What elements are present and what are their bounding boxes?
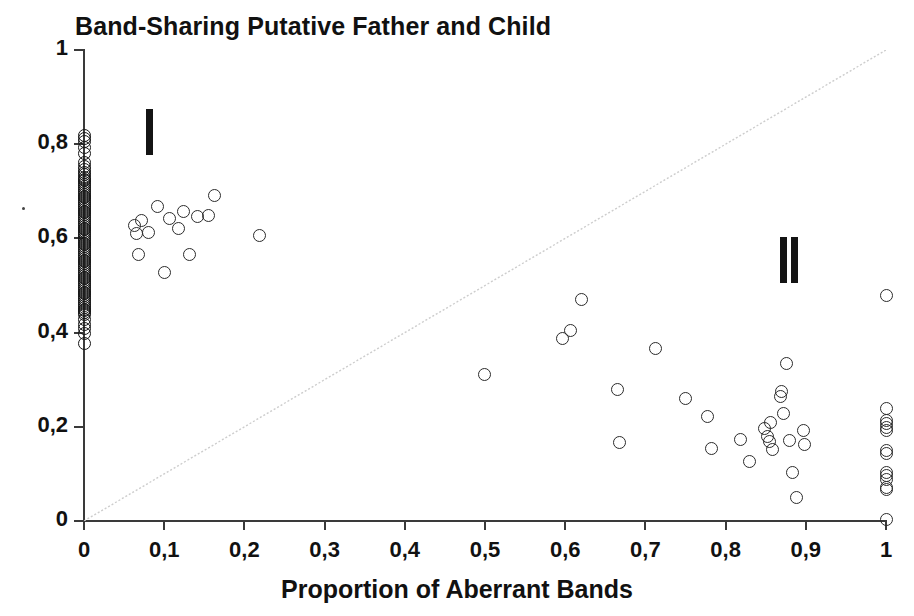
- annotation-bar: [146, 109, 153, 155]
- x-tick: [243, 521, 245, 530]
- scatter-point: [777, 407, 790, 420]
- x-tick-label: 0,7: [605, 537, 685, 563]
- x-tick-label: 0,1: [124, 537, 204, 563]
- chart-title: Band-Sharing Putative Father and Child: [75, 12, 551, 41]
- scatter-point: [564, 324, 577, 337]
- x-tick: [644, 521, 646, 530]
- x-tick: [324, 521, 326, 530]
- x-tick: [725, 521, 727, 530]
- x-tick-label: 0,6: [525, 537, 605, 563]
- scatter-point: [790, 491, 803, 504]
- y-tick-label: 1: [0, 35, 68, 61]
- scan-speck: [22, 207, 25, 210]
- scatter-point: [142, 226, 155, 239]
- x-tick: [564, 521, 566, 530]
- x-tick-label: 1: [846, 537, 914, 563]
- scatter-point: [649, 342, 662, 355]
- scatter-point: [783, 434, 796, 447]
- scatter-point: [575, 293, 588, 306]
- scatter-point: [743, 455, 756, 468]
- x-tick: [805, 521, 807, 530]
- scatter-point: [880, 483, 893, 496]
- y-tick-label: 0,6: [0, 223, 68, 249]
- y-tick: [74, 49, 83, 51]
- x-tick-label: 0,3: [285, 537, 365, 563]
- scatter-point: [478, 368, 491, 381]
- x-tick: [484, 521, 486, 530]
- scatter-point: [183, 248, 196, 261]
- scatter-point: [158, 266, 171, 279]
- scatter-point: [786, 466, 799, 479]
- annotation-bar: [780, 237, 787, 283]
- scatter-point: [78, 337, 91, 350]
- scatter-point: [797, 424, 810, 437]
- scatter-point: [880, 424, 893, 437]
- scatter-point: [705, 442, 718, 455]
- scatter-point: [880, 289, 893, 302]
- scatter-point: [679, 392, 692, 405]
- scatter-point: [880, 513, 893, 526]
- y-tick: [74, 426, 83, 428]
- scatter-point: [701, 410, 714, 423]
- scatter-point: [177, 205, 190, 218]
- x-tick-label: 0,5: [445, 537, 525, 563]
- scatter-point: [798, 438, 811, 451]
- scatter-point: [132, 248, 145, 261]
- chart-canvas: Band-Sharing Putative Father and Child 0…: [0, 0, 914, 616]
- y-tick-label: 0: [0, 506, 68, 532]
- y-tick-label: 0,8: [0, 129, 68, 155]
- scatter-point: [151, 200, 164, 213]
- scatter-point: [208, 189, 221, 202]
- x-tick-label: 0: [44, 537, 124, 563]
- scatter-point: [880, 447, 893, 460]
- scatter-point: [764, 416, 777, 429]
- x-tick-label: 0,9: [766, 537, 846, 563]
- y-tick: [74, 520, 83, 522]
- x-tick: [163, 521, 165, 530]
- x-tick-label: 0,4: [365, 537, 445, 563]
- y-tick-label: 0,4: [0, 318, 68, 344]
- annotation-bar: [791, 237, 798, 283]
- scatter-point: [202, 209, 215, 222]
- scatter-point: [780, 357, 793, 370]
- x-axis-title: Proportion of Aberrant Bands: [0, 575, 914, 604]
- scatter-point: [766, 443, 779, 456]
- x-tick: [404, 521, 406, 530]
- y-tick-label: 0,2: [0, 412, 68, 438]
- scatter-point: [172, 222, 185, 235]
- scatter-point: [611, 383, 624, 396]
- x-tick-label: 0,2: [204, 537, 284, 563]
- x-tick: [83, 521, 85, 530]
- x-tick-label: 0,8: [686, 537, 766, 563]
- scatter-point: [253, 229, 266, 242]
- scatter-point: [734, 433, 747, 446]
- scatter-point: [613, 436, 626, 449]
